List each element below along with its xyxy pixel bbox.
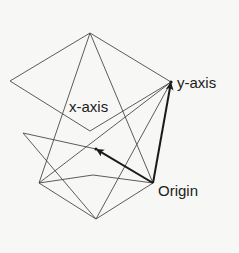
inner-point-dot	[94, 147, 97, 150]
line-left_upper-inner_dot	[23, 133, 96, 149]
line-left_lower-bottom	[39, 183, 96, 219]
line-mid_low-origin	[93, 175, 153, 183]
origin-label: Origin	[158, 182, 198, 199]
line-left_lower-mid_low	[39, 175, 93, 183]
line-bottom-origin	[96, 183, 153, 219]
line-top-left	[10, 33, 90, 81]
coordinate-frame-diagram: x-axis y-axis Origin	[0, 0, 239, 253]
line-top-y_axis	[90, 33, 171, 82]
y-axis-label: y-axis	[177, 74, 216, 91]
y-axis-point-dot	[169, 80, 172, 83]
axis-arrows	[98, 84, 171, 183]
wireframe-lines	[10, 33, 171, 219]
arrow-origin-to-inner_dot	[98, 150, 153, 183]
x-axis-label: x-axis	[69, 98, 108, 115]
